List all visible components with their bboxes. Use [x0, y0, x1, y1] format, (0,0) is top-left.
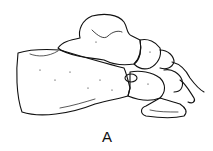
talus-outline [58, 14, 141, 64]
cuboid-outline [128, 71, 165, 100]
texture-dots [39, 41, 150, 90]
navicular-outline [134, 39, 161, 68]
figure-label: A [97, 128, 117, 145]
